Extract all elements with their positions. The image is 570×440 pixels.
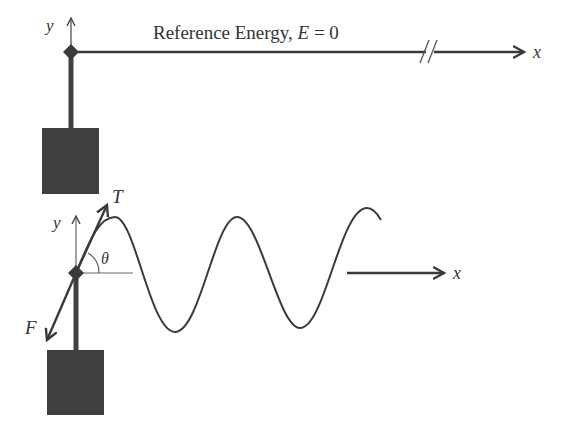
angle-label: θ: [101, 250, 109, 267]
bottom-mass-block: [47, 350, 104, 415]
force-label: F: [24, 317, 37, 338]
angle-arc: [88, 253, 99, 273]
wave-curve: [76, 208, 381, 332]
force-arrow: [47, 273, 76, 340]
bottom-pivot-diamond: [68, 265, 84, 281]
bottom-panel: y θ T F x: [24, 186, 461, 415]
bottom-rod: [74, 273, 79, 351]
top-mass-block: [42, 128, 99, 194]
reference-label-prefix: Reference Energy,: [153, 22, 298, 43]
top-rod: [69, 52, 74, 130]
top-panel: y x Reference Energy, E = 0: [42, 16, 541, 194]
bottom-y-axis-label: y: [51, 213, 61, 232]
reference-label-suffix: = 0: [309, 22, 339, 43]
top-pivot-diamond: [63, 44, 79, 60]
wave-on-string-diagram: y x Reference Energy, E = 0 y θ: [0, 0, 570, 440]
top-y-axis-label: y: [44, 16, 54, 35]
top-x-axis-label: x: [532, 42, 541, 62]
reference-energy-label: Reference Energy, E = 0: [153, 22, 339, 43]
reference-label-var: E: [297, 22, 310, 43]
bottom-x-axis-label: x: [452, 263, 461, 283]
tension-label: T: [112, 186, 124, 207]
